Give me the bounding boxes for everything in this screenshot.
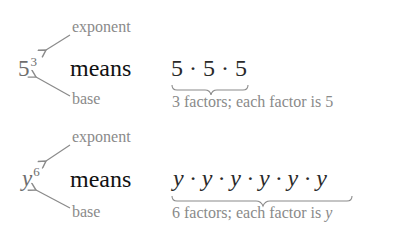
- base-arrow-icon: [36, 190, 70, 208]
- base-value: y: [22, 166, 32, 191]
- factor-caption: 6 factors; each factor is y: [172, 204, 332, 222]
- power-expression: y6: [22, 166, 39, 192]
- means-word: means: [70, 166, 131, 193]
- base-label: base: [72, 203, 100, 221]
- power-expression: 53: [18, 56, 36, 82]
- caption-text: 6 factors; each factor is: [172, 204, 325, 221]
- factor-caption: 3 factors; each factor is 5: [172, 93, 333, 111]
- base-arrow-icon: [36, 77, 70, 96]
- expansion: 5 · 5 · 5: [171, 55, 247, 82]
- means-word: means: [70, 55, 131, 82]
- exponent-arrow-icon: [46, 35, 70, 50]
- exponent-label: exponent: [72, 18, 131, 36]
- base-value: 5: [18, 56, 30, 81]
- caption-variable: y: [325, 204, 332, 221]
- base-label: base: [72, 90, 100, 108]
- exponent-label: exponent: [72, 128, 131, 146]
- exponent-value: 6: [33, 164, 40, 179]
- exponent-value: 3: [31, 54, 38, 69]
- expansion: y · y · y · y · y · y: [173, 165, 327, 192]
- exponent-arrow-icon: [46, 145, 70, 161]
